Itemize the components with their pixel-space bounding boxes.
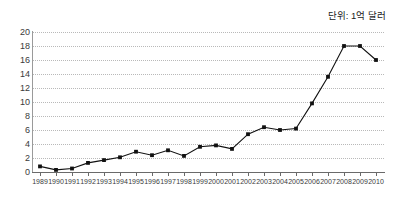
- data-point-marker: [310, 102, 314, 106]
- data-point-marker: [326, 75, 330, 79]
- data-point-marker: [118, 155, 122, 159]
- data-point-marker: [150, 153, 154, 157]
- data-point-marker: [294, 127, 298, 131]
- data-point-marker: [358, 44, 362, 48]
- data-point-marker: [198, 145, 202, 149]
- data-point-marker: [342, 44, 346, 48]
- data-point-marker: [166, 148, 170, 152]
- data-point-marker: [38, 165, 42, 169]
- data-point-marker: [214, 144, 218, 148]
- data-point-marker: [54, 168, 58, 172]
- data-point-marker: [262, 125, 266, 129]
- data-point-marker: [246, 132, 250, 136]
- data-point-marker: [182, 154, 186, 158]
- data-point-marker: [102, 158, 106, 162]
- data-point-marker: [230, 147, 234, 151]
- data-point-marker: [278, 128, 282, 132]
- data-series-layer: [0, 0, 394, 201]
- data-point-marker: [134, 150, 138, 154]
- line-chart: 단위: 1억 달러 02468101214161820 198919901991…: [0, 0, 394, 201]
- series-markers: [38, 44, 378, 172]
- data-point-marker: [86, 161, 90, 165]
- data-point-marker: [374, 58, 378, 62]
- data-point-marker: [70, 167, 74, 171]
- series-line-export: [40, 46, 376, 170]
